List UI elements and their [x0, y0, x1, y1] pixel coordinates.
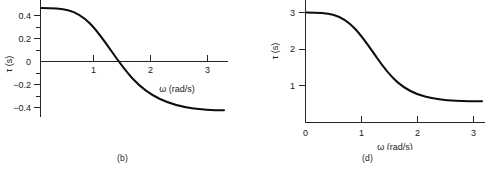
data-curve-b: [42, 8, 225, 110]
x-tick-label-b-2: 3: [205, 65, 210, 75]
y-tick-label-b-2: 0: [26, 57, 31, 67]
y-tick-label-b-3: −0.2: [13, 80, 31, 90]
x-tick-label-d-3: 3: [471, 128, 476, 138]
y-axis-title-d: τ (s): [270, 43, 280, 60]
x-tick-label-d-2: 2: [415, 128, 420, 138]
chart-panel-d: 3 2 1 0 1 2 3 τ (s) ω (rad/s) (d): [245, 0, 490, 172]
x-tick-label-d-0: 0: [303, 128, 308, 138]
chart-panel-b: 0.4 0.2 0 −0.2 −0.4 1 2 3 τ (s) ω (rad/s…: [0, 0, 245, 172]
y-tick-label-d-2: 1: [290, 81, 295, 91]
x-axis-title-d: ω (rad/s): [377, 142, 413, 150]
x-ticks-b: [94, 55, 208, 62]
y-ticks-b: [34, 16, 41, 108]
figure-container: 0.4 0.2 0 −0.2 −0.4 1 2 3 τ (s) ω (rad/s…: [0, 0, 490, 172]
plot-b-svg: 0.4 0.2 0 −0.2 −0.4 1 2 3 τ (s) ω (rad/s…: [0, 0, 245, 150]
y-axis-title-b: τ (s): [4, 56, 14, 73]
x-tick-label-b-1: 2: [148, 65, 153, 75]
y-tick-label-b-4: −0.4: [13, 103, 31, 113]
y-tick-label-d-0: 3: [290, 8, 295, 18]
x-axis-title-b: ω (rad/s): [159, 84, 195, 94]
y-tick-label-b-1: 0.2: [18, 34, 31, 44]
data-curve-d: [307, 13, 483, 102]
x-tick-label-d-1: 1: [359, 128, 364, 138]
x-tick-label-b-0: 1: [91, 65, 96, 75]
panel-caption-b: (b): [0, 153, 245, 163]
x-ticks-d: [362, 116, 474, 123]
panel-caption-d: (d): [245, 153, 490, 163]
y-tick-label-b-0: 0.4: [18, 11, 31, 21]
plot-d-svg: 3 2 1 0 1 2 3 τ (s) ω (rad/s): [245, 0, 490, 150]
y-ticks-d: [299, 13, 306, 86]
y-tick-label-d-1: 2: [290, 44, 295, 54]
